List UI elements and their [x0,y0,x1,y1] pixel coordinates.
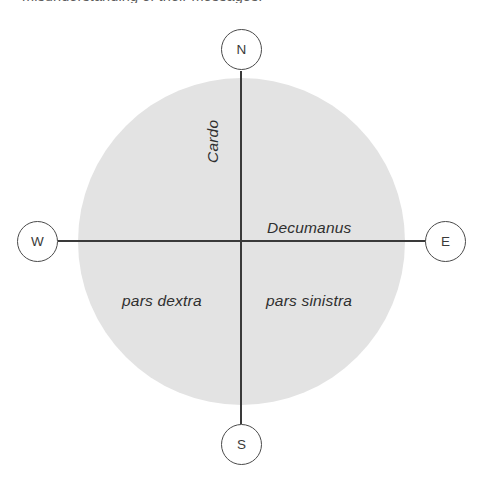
clipped-caption-text: misunderstanding of their messages. [22,0,352,3]
decumanus-axis-line [58,240,428,242]
compass-marker-north: N [221,29,262,70]
cardo-axis-line [240,71,242,424]
compass-marker-south: S [221,424,262,465]
cardo-axis-label: Cardo [204,120,222,163]
compass-marker-east: E [425,221,466,262]
pars-dextra-label: pars dextra [122,292,202,310]
compass-marker-west: W [17,221,58,262]
pars-sinistra-label: pars sinistra [266,292,352,310]
augury-template-diagram: misunderstanding of their messages. Card… [0,0,486,479]
decumanus-axis-label: Decumanus [267,219,352,237]
